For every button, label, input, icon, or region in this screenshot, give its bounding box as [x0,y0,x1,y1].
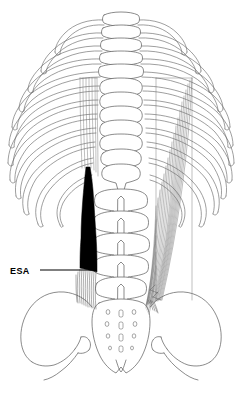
erector-spinae-left-fibers-upper [80,78,98,176]
erector-spinae-left-fibers-lower [76,269,96,309]
sacrum [92,299,150,373]
lumbar-vertebrae [93,189,150,306]
anatomy-illustration: ESA [0,0,242,393]
thoracic-vertebrae [99,12,144,190]
esa-label: ESA [10,266,30,276]
erector-spinae-aponeurosis-shaded [80,167,97,272]
anatomy-figure: ESA [0,0,242,393]
